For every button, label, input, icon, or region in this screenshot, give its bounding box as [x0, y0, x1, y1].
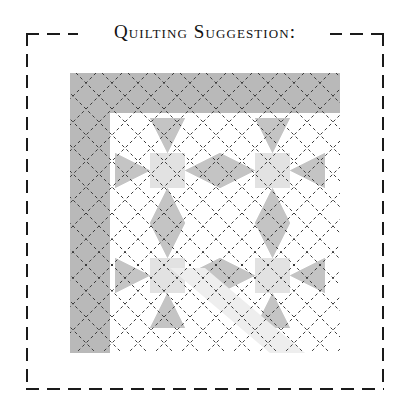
- frame-bottom-dash: [26, 388, 384, 390]
- corner-tl: [115, 223, 150, 258]
- frame-left-dash: [26, 33, 28, 390]
- corner-br: [290, 188, 325, 223]
- corner-br: [290, 293, 325, 328]
- corner-tr: [290, 118, 325, 153]
- corner-tr: [185, 118, 220, 153]
- quilt-svg: [70, 73, 340, 353]
- corner-tl: [115, 118, 150, 153]
- quilt-diagram-container: [70, 73, 340, 353]
- center-sq: [255, 153, 290, 188]
- corner-tl: [220, 223, 255, 258]
- quilt-border-left: [70, 73, 110, 353]
- center-sq: [255, 258, 290, 293]
- page-title: Quilting Suggestion:: [26, 19, 384, 45]
- corner-br: [185, 188, 220, 223]
- frame-right-dash: [382, 33, 384, 390]
- center-sq: [150, 153, 185, 188]
- corner-tl: [220, 118, 255, 153]
